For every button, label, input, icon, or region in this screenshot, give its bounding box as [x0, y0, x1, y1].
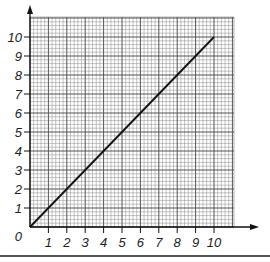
y-tick-label: 6	[15, 106, 23, 121]
x-tick-label: 4	[100, 235, 107, 250]
y-tick-label: 9	[15, 49, 22, 64]
x-tick-label: 2	[62, 235, 71, 250]
x-tick-label: 8	[174, 235, 182, 250]
y-tick-label: 3	[15, 163, 23, 178]
x-tick-label: 10	[207, 235, 222, 250]
x-tick-label: 9	[192, 235, 199, 250]
x-tick-label: 3	[82, 235, 90, 250]
axes	[27, 5, 259, 230]
y-tick-label: 4	[15, 144, 22, 159]
x-tick-label: 6	[137, 235, 145, 250]
y-tick-label: 7	[15, 87, 23, 102]
origin-label: 0	[15, 229, 23, 244]
y-tick-label: 1	[15, 201, 22, 216]
y-tick-label: 8	[15, 68, 23, 83]
y-tick-label: 10	[8, 30, 23, 45]
y-tick-label: 2	[14, 182, 23, 197]
x-tick-label: 1	[45, 235, 52, 250]
x-axis-arrow-icon	[250, 224, 259, 230]
x-tick-label: 5	[118, 235, 126, 250]
x-tick-label: 7	[155, 235, 163, 250]
y-tick-label: 5	[15, 125, 23, 140]
bottom-divider	[0, 255, 270, 257]
y-axis-arrow-icon	[27, 5, 33, 14]
line-chart: 12345678910123456789100	[0, 0, 270, 262]
